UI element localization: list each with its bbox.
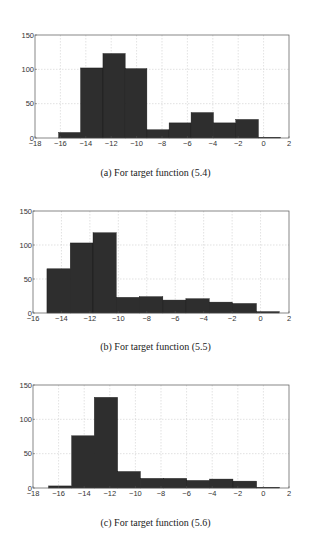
x-tick-label: −8	[142, 314, 151, 323]
y-tick-label: 0	[28, 484, 32, 493]
y-tick-label: 0	[30, 134, 34, 143]
histogram-b: −16−14−12−10−8−6−4−202050100150	[0, 180, 311, 360]
x-tick-label: −4	[208, 489, 217, 498]
y-tick-label: 150	[21, 31, 34, 40]
y-tick-label: 150	[19, 207, 32, 216]
x-tick-label: −6	[171, 314, 180, 323]
x-tick-label: −12	[105, 139, 118, 148]
histogram-bar	[233, 481, 257, 488]
histogram-bar	[47, 269, 70, 313]
histogram-bar	[140, 478, 163, 488]
y-tick-label: 50	[24, 449, 32, 458]
x-tick-label: −8	[158, 139, 167, 148]
x-tick-label: −8	[157, 489, 166, 498]
x-tick-label: −10	[112, 314, 125, 323]
x-tick-label: 2	[287, 489, 291, 498]
histogram-bar	[147, 130, 169, 138]
x-tick-label: −16	[54, 139, 67, 148]
histogram-bar	[72, 436, 95, 488]
histogram-bar	[213, 123, 235, 138]
histogram-bar	[118, 472, 141, 488]
x-tick-label: −12	[103, 489, 116, 498]
histogram-bar	[81, 68, 103, 138]
x-tick-label: −14	[55, 314, 68, 323]
histogram-panel-c: −18−16−14−12−10−8−6−4−202050100150 (c) F…	[0, 360, 311, 541]
caption-a: (a) For target function (5.4)	[0, 167, 311, 178]
histogram-bar	[70, 243, 93, 313]
x-tick-label: −2	[234, 489, 243, 498]
x-tick-label: −14	[79, 139, 92, 148]
histogram-bar	[191, 113, 213, 138]
x-tick-label: 2	[287, 314, 291, 323]
y-tick-label: 100	[19, 241, 32, 250]
x-tick-label: 0	[261, 489, 265, 498]
x-tick-label: −12	[84, 314, 97, 323]
y-tick-label: 150	[19, 381, 32, 390]
histogram-bar	[236, 119, 259, 138]
x-tick-label: −6	[182, 489, 191, 498]
histogram-panel-a: −18−16−14−12−10−8−6−4−202050100150 (a) F…	[0, 0, 311, 180]
x-tick-label: −4	[199, 314, 208, 323]
histogram-bar	[139, 297, 163, 313]
x-tick-label: −10	[129, 489, 142, 498]
y-tick-label: 0	[28, 309, 32, 318]
y-tick-label: 50	[24, 275, 32, 284]
histogram-bar	[232, 303, 256, 313]
histogram-bar	[94, 397, 117, 488]
x-tick-label: −2	[228, 314, 237, 323]
x-tick-label: 0	[258, 314, 262, 323]
y-tick-label: 50	[26, 99, 34, 108]
histogram-bar	[93, 233, 116, 313]
histogram-bar	[163, 478, 186, 488]
x-tick-label: −16	[52, 489, 65, 498]
histogram-panel-b: −16−14−12−10−8−6−4−202050100150 (b) For …	[0, 180, 311, 360]
histogram-a: −18−16−14−12−10−8−6−4−202050100150	[0, 0, 311, 180]
histogram-bar	[163, 300, 186, 313]
histogram-bar	[210, 479, 233, 488]
x-tick-label: −14	[78, 489, 91, 498]
x-tick-label: 2	[287, 139, 291, 148]
histogram-bar	[187, 480, 210, 488]
x-tick-label: −10	[130, 139, 143, 148]
histogram-bar	[186, 299, 209, 313]
histogram-bar	[209, 302, 232, 313]
x-tick-label: −2	[234, 139, 243, 148]
x-tick-label: 0	[262, 139, 266, 148]
histogram-bar	[103, 54, 125, 138]
y-tick-label: 100	[19, 415, 32, 424]
x-tick-label: −4	[209, 139, 218, 148]
y-tick-label: 100	[21, 65, 34, 74]
histogram-c: −18−16−14−12−10−8−6−4−202050100150	[0, 360, 311, 541]
histogram-bar	[59, 133, 81, 138]
histogram-bar	[116, 297, 139, 313]
caption-c: (c) For target function (5.6)	[0, 517, 311, 528]
x-tick-label: −6	[183, 139, 192, 148]
caption-b: (b) For target function (5.5)	[0, 341, 311, 352]
histogram-bar	[169, 123, 191, 138]
histogram-bar	[125, 69, 147, 138]
